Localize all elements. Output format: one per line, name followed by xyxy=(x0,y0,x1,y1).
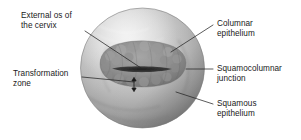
label-external-os: External os of the cervix xyxy=(21,11,72,31)
label-squamocolumnar-junction: Squamocolumnar junction xyxy=(217,64,282,84)
label-columnar-epithelium: Columnar epithelium xyxy=(217,19,255,39)
label-squamous-epithelium: Squamous epithelium xyxy=(217,99,257,119)
label-transformation-zone: Transformation zone xyxy=(13,69,68,89)
